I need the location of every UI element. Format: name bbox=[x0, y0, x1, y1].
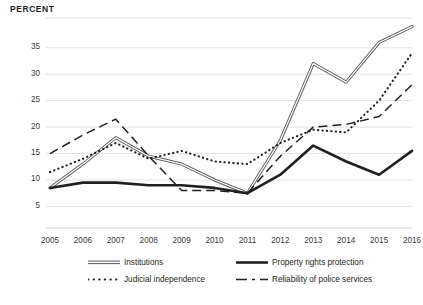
x-tick-label: 2005 bbox=[33, 236, 67, 245]
y-tick-label: 10 bbox=[18, 174, 40, 183]
legend-swatch-judicial-independence bbox=[88, 275, 120, 284]
x-tick-label: 2010 bbox=[198, 236, 232, 245]
y-tick-label: 20 bbox=[18, 122, 40, 131]
y-axis-title: PERCENT bbox=[10, 4, 54, 14]
series-lines bbox=[50, 27, 412, 194]
legend-item-institutions[interactable]: Institutions bbox=[88, 258, 163, 267]
chart-legend: Institutions Property rights protection … bbox=[0, 258, 423, 305]
legend-label-property-rights: Property rights protection bbox=[272, 258, 363, 267]
chart-container: PERCENT 5101520253035 200520062007200820… bbox=[0, 0, 423, 305]
x-tick-label: 2006 bbox=[66, 236, 100, 245]
x-tick-label: 2008 bbox=[132, 236, 166, 245]
x-tick-label: 2012 bbox=[263, 236, 297, 245]
x-tick-label: 2013 bbox=[296, 236, 330, 245]
x-tick-label: 2016 bbox=[395, 236, 423, 245]
gridlines bbox=[46, 18, 412, 228]
legend-item-police-reliability[interactable]: Reliability of police services bbox=[236, 275, 372, 284]
y-tick-label: 25 bbox=[18, 95, 40, 104]
y-tick-label: 35 bbox=[18, 42, 40, 51]
chart-svg bbox=[0, 14, 423, 229]
line-judicial-independence bbox=[50, 53, 412, 172]
x-tick-label: 2014 bbox=[329, 236, 363, 245]
x-tick-label: 2009 bbox=[165, 236, 199, 245]
legend-item-property-rights[interactable]: Property rights protection bbox=[236, 258, 363, 267]
plot-area bbox=[0, 14, 423, 229]
legend-label-judicial-independence: Judicial independence bbox=[124, 275, 205, 284]
y-tick-label: 30 bbox=[18, 69, 40, 78]
x-tick-label: 2007 bbox=[99, 236, 133, 245]
y-tick-label: 15 bbox=[18, 148, 40, 157]
y-tick-label: 5 bbox=[18, 201, 40, 210]
x-tick-label: 2015 bbox=[362, 236, 396, 245]
legend-item-judicial-independence[interactable]: Judicial independence bbox=[88, 275, 205, 284]
legend-swatch-institutions bbox=[88, 258, 120, 267]
legend-label-institutions: Institutions bbox=[124, 258, 163, 267]
x-tick-label: 2011 bbox=[230, 236, 264, 245]
legend-swatch-police-reliability bbox=[236, 275, 268, 284]
line-institutions-outer bbox=[50, 27, 412, 194]
legend-swatch-property-rights bbox=[236, 258, 268, 267]
legend-label-police-reliability: Reliability of police services bbox=[272, 275, 372, 284]
line-institutions-inner bbox=[50, 27, 412, 194]
